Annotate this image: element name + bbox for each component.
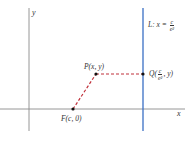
directrix-label: L: x = ce²	[148, 19, 175, 32]
point-p	[94, 72, 97, 75]
point-q-label: Q(ce², y)	[149, 68, 173, 81]
directrix-fraction: ce²	[169, 19, 175, 32]
point-q-label-prefix: Q(	[149, 69, 157, 78]
point-q-label-suffix: , y)	[163, 69, 173, 78]
point-q	[141, 72, 144, 75]
point-f	[71, 107, 74, 110]
x-axis-label: x	[177, 110, 181, 118]
point-f-label: F(c, 0)	[61, 115, 81, 123]
point-q-fraction-numerator: c	[158, 68, 163, 75]
point-p-label: P(x, y)	[84, 63, 104, 71]
y-axis-label: y	[32, 9, 36, 17]
segment-f-p	[73, 74, 96, 109]
directrix-fraction-denominator: e²	[169, 26, 175, 32]
directrix-label-prefix: L: x =	[148, 20, 169, 29]
directrix-fraction-numerator: c	[170, 19, 175, 26]
